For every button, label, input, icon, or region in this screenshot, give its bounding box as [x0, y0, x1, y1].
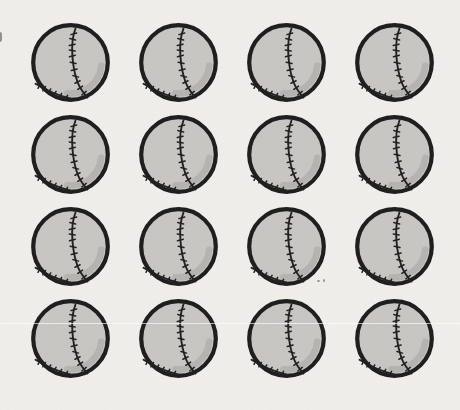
baseball-icon: baseball — [139, 115, 218, 194]
baseball-icon: baseball — [247, 23, 326, 102]
baseball-icon: baseball — [247, 115, 326, 194]
worksheet-canvas: baseball — [0, 0, 460, 410]
baseball-icon: baseball — [31, 299, 110, 378]
baseball-icon: baseball — [139, 23, 218, 102]
baseball-icon: baseball — [355, 299, 434, 378]
baseball-icon: baseball — [31, 115, 110, 194]
baseball-icon: baseball — [247, 299, 326, 378]
baseball-icon: baseball — [31, 23, 110, 102]
baseball-icon: baseball — [31, 207, 110, 286]
baseball-grid: baseball — [0, 0, 460, 410]
baseball-icon: baseball — [355, 23, 434, 102]
baseball-icon: baseball — [355, 115, 434, 194]
baseball-icon: baseball — [139, 207, 218, 286]
baseball-icon: baseball — [247, 207, 326, 286]
baseball-icon: baseball — [355, 207, 434, 286]
baseball-icon: baseball — [139, 299, 218, 378]
